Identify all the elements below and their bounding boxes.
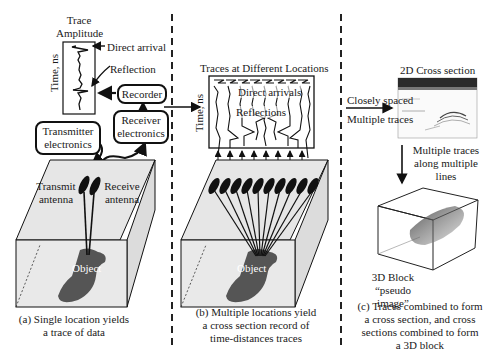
receive-antenna-label: Receive antenna (100, 180, 144, 206)
reflection-label: Reflection (110, 63, 156, 75)
cross-section-image (398, 78, 477, 138)
object-label-a: Object (72, 262, 101, 274)
caption-c: (c) Traces combined to form a cross sect… (344, 300, 496, 352)
receiver-electronics-box: Receiver electronics (113, 110, 169, 144)
traces-title: Traces at Different Locations (200, 62, 329, 74)
multiple-traces-lines-label: Multiple traces along multiple lines (406, 144, 486, 183)
trace-amplitude-title: Trace Amplitude (56, 14, 102, 40)
multiple-traces-label: Multiple traces (347, 113, 413, 125)
object-label-b: Object (237, 262, 266, 274)
cross-section-title: 2D Cross section (400, 64, 475, 76)
direct-arrivals-label: Direct arrivals (238, 86, 301, 98)
caption-a: (a) Single location yields a trace of da… (4, 313, 144, 339)
reflections-label: Reflections (236, 106, 286, 118)
direct-arrival-label: Direct arrival (107, 41, 166, 53)
closely-spaced-label: Closely spaced (347, 94, 413, 106)
time-axis-label-b: Time, ns (193, 94, 205, 132)
transmit-antenna-label: Transmit antenna (34, 180, 78, 206)
block-3d-anomaly (410, 206, 464, 245)
transmitter-electronics-box: Transmitter electronics (35, 121, 101, 155)
time-axis-label-a: Time, ns (48, 54, 60, 92)
caption-b: (b) Multiple locations yield a cross sec… (176, 306, 336, 345)
recorder-box: Recorder (117, 84, 167, 104)
